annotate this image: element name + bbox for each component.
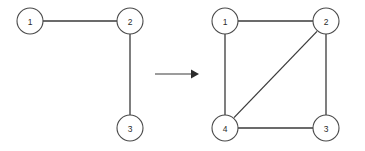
after-graph: 1243 xyxy=(212,8,339,141)
before-graph: 123 xyxy=(17,8,143,141)
after-node-2: 2 xyxy=(313,8,339,34)
after-node-label-1: 1 xyxy=(223,17,228,27)
after-node-label-3: 3 xyxy=(324,124,329,134)
after-edge-2-4 xyxy=(234,31,317,117)
transformation-arrow-head xyxy=(191,70,199,79)
before-node-label-2: 2 xyxy=(128,17,133,27)
after-node-label-4: 4 xyxy=(223,124,228,134)
after-node-label-2: 2 xyxy=(324,17,329,27)
before-graph-nodes: 123 xyxy=(17,8,143,141)
after-node-4: 4 xyxy=(212,115,238,141)
diagram-root: 123 1243 xyxy=(0,0,365,151)
after-node-1: 1 xyxy=(212,8,238,34)
after-graph-edges xyxy=(225,21,326,128)
before-node-label-1: 1 xyxy=(28,17,33,27)
graph-canvas: 123 1243 xyxy=(0,0,365,151)
before-node-label-3: 3 xyxy=(128,124,133,134)
before-node-3: 3 xyxy=(117,115,143,141)
transformation-arrow xyxy=(155,70,199,79)
before-graph-edges xyxy=(43,21,130,115)
before-node-2: 2 xyxy=(117,8,143,34)
after-node-3: 3 xyxy=(313,115,339,141)
before-node-1: 1 xyxy=(17,8,43,34)
